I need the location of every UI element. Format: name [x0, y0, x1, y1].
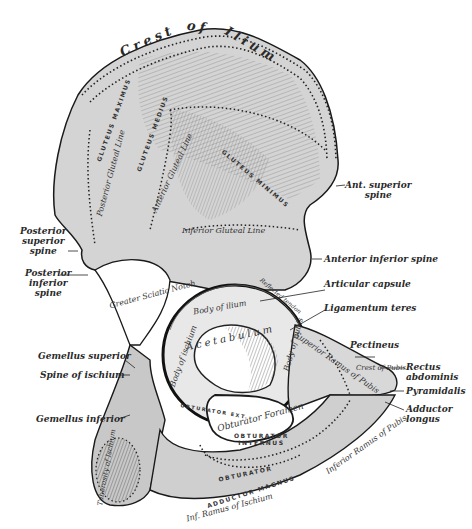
- label-spine-of-ischium: Spine of ischium: [40, 370, 125, 380]
- label-posterior-superior-spine: Posterior superior spine: [20, 226, 66, 256]
- label-crest-of-pubis: Crest of Pubis: [356, 364, 406, 372]
- label-rectus-abdominis: Rectus abdominis: [406, 362, 458, 382]
- hip-bone-drawing: [0, 0, 472, 529]
- label-pyramidalis: Pyramidalis: [406, 386, 466, 396]
- label-gemellus-superior: Gemellus superior: [38, 351, 131, 361]
- hip-bone-illustration: Crest of Ilium Ant. superior spine Anter…: [0, 0, 472, 529]
- label-gemellus-inferior: Gemellus inferior: [36, 414, 125, 424]
- label-pectineus: Pectineus: [350, 340, 399, 350]
- label-articular-capsule: Articular capsule: [324, 279, 411, 289]
- label-of-word: of: [186, 20, 209, 33]
- label-ant-superior-spine: Ant. superior spine: [345, 180, 412, 200]
- label-posterior-inferior-spine: Posterior inferior spine: [25, 268, 71, 298]
- label-inferior-gluteal-line: Inferior Gluteal Line: [182, 226, 265, 235]
- label-obturator-internus: OBTURATOR INTERNUS: [234, 432, 289, 446]
- label-adductor-longus: Adductor longus: [406, 404, 453, 424]
- label-ligamentum-teres: Ligamentum teres: [324, 303, 416, 313]
- label-anterior-inferior-spine: Anterior inferior spine: [324, 254, 438, 264]
